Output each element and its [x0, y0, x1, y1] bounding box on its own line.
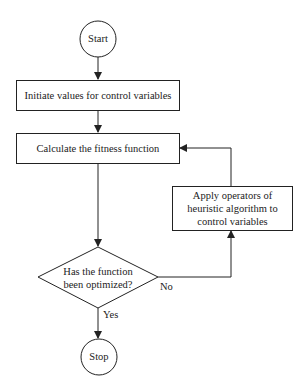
decision-label-line1: Has the function	[48, 266, 148, 278]
fitness-label: Calculate the fitness function	[17, 134, 179, 163]
apply-label-line3: control variables	[173, 216, 292, 228]
decision-label-line2: been optimized?	[48, 279, 148, 291]
apply-label-line2: heuristic algorithm to	[173, 203, 292, 215]
stop-label: Stop	[81, 351, 117, 363]
edge-decision-apply	[158, 231, 231, 277]
init-label: Initiate values for control variables	[17, 81, 179, 110]
apply-label-line1: Apply operators of	[173, 190, 292, 202]
no-edge-label: No	[160, 281, 173, 292]
yes-edge-label: Yes	[103, 309, 118, 320]
start-label: Start	[80, 33, 116, 45]
edge-apply-fitness	[180, 148, 231, 186]
